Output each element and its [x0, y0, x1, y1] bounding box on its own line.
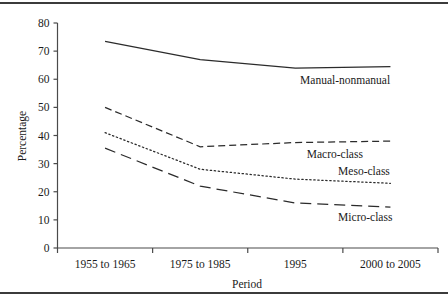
- series-line-macro-class: [105, 107, 390, 146]
- series-label-macro-class: Macro-class: [307, 148, 364, 160]
- x-tick-label: 1995: [284, 258, 307, 270]
- x-axis-tick-labels: 1955 to 19651975 to 198519952000 to 2005: [75, 258, 421, 270]
- y-tick-label: 0: [44, 242, 50, 254]
- y-tick-label: 40: [38, 130, 50, 142]
- y-tick-label: 60: [38, 73, 50, 85]
- y-tick-label: 50: [38, 101, 50, 113]
- y-axis-tick-labels: 01020304050607080: [38, 17, 50, 254]
- y-axis-title: Percentage: [16, 111, 29, 161]
- series-label-manual-nonmanual: Manual-nonmanual: [300, 74, 390, 86]
- series-line-manual-nonmanual: [105, 41, 390, 68]
- x-tick-label: 1955 to 1965: [75, 258, 136, 270]
- series-label-micro-class: Micro-class: [338, 211, 393, 223]
- data-series-group: [105, 41, 390, 207]
- x-axis-title: Period: [232, 278, 262, 290]
- series-inline-labels: Manual-nonmanualMacro-classMeso-classMic…: [300, 74, 393, 223]
- figure-container: 01020304050607080 1955 to 19651975 to 19…: [0, 0, 448, 307]
- y-tick-label: 20: [38, 186, 50, 198]
- x-axis-ticks: [58, 248, 439, 253]
- y-tick-label: 30: [38, 158, 50, 170]
- line-chart: 01020304050607080 1955 to 19651975 to 19…: [0, 0, 448, 307]
- figure-top-rule: [0, 2, 448, 4]
- y-tick-label: 80: [38, 17, 50, 29]
- x-tick-label: 1975 to 1985: [170, 258, 231, 270]
- y-tick-label: 70: [38, 45, 50, 57]
- series-label-meso-class: Meso-class: [338, 165, 390, 177]
- y-tick-label: 10: [38, 214, 50, 226]
- x-tick-label: 2000 to 2005: [360, 258, 421, 270]
- figure-bottom-rule: [0, 292, 448, 294]
